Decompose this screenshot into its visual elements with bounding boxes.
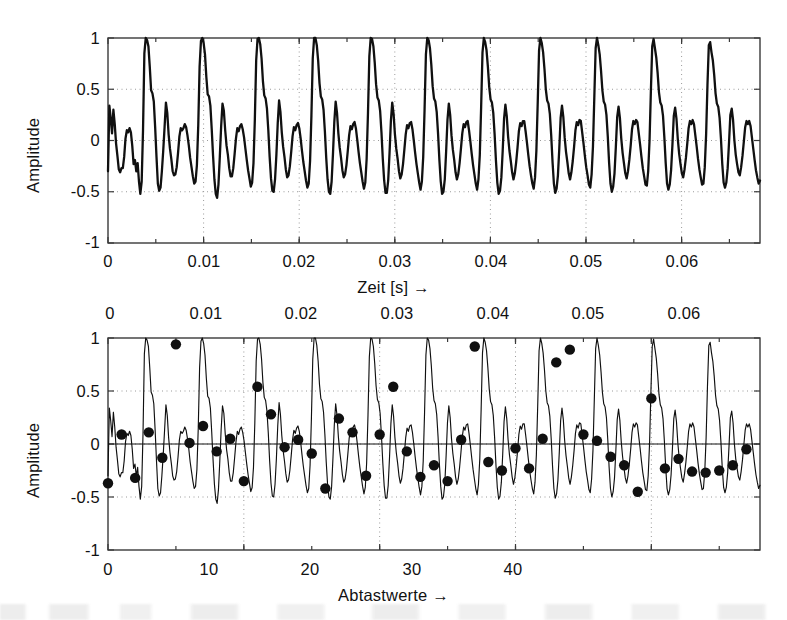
sample-point xyxy=(673,454,683,464)
sample-point xyxy=(361,471,371,481)
sample-point xyxy=(239,476,249,486)
sample-point xyxy=(605,452,615,462)
sample-point xyxy=(537,434,547,444)
sample-point xyxy=(470,341,480,351)
sample-point xyxy=(660,463,670,473)
sample-point xyxy=(184,438,194,448)
sample-point xyxy=(415,472,425,482)
sample-point xyxy=(510,443,520,453)
sample-point xyxy=(157,453,167,463)
sample-point xyxy=(225,434,235,444)
sample-point xyxy=(171,339,181,349)
sample-point xyxy=(483,457,493,467)
sample-point xyxy=(619,460,629,470)
waveform-line xyxy=(108,338,760,503)
sample-point xyxy=(144,427,154,437)
figure-root: Amplitude 1 0.5 0 -0.5 -1 0 0.01 0.02 0.… xyxy=(0,0,787,620)
sample-point xyxy=(279,442,289,452)
sample-point xyxy=(388,382,398,392)
sample-point xyxy=(130,473,140,483)
sample-point xyxy=(116,429,126,439)
sample-point xyxy=(429,460,439,470)
bottom-plot-canvas xyxy=(0,300,787,620)
sample-point xyxy=(374,429,384,439)
sample-point xyxy=(442,476,452,486)
sample-point xyxy=(728,460,738,470)
sample-point xyxy=(211,446,221,456)
top-plot-canvas xyxy=(0,0,787,300)
panel-bottom: Amplitude 0 0.01 0.02 0.03 0.04 0.05 0.0… xyxy=(0,300,787,620)
panel-top: Amplitude 1 0.5 0 -0.5 -1 0 0.01 0.02 0.… xyxy=(0,0,787,300)
sample-point xyxy=(714,465,724,475)
sample-point xyxy=(524,463,534,473)
sample-point xyxy=(741,444,751,454)
sample-point xyxy=(456,435,466,445)
sample-point xyxy=(347,427,357,437)
sample-point xyxy=(402,446,412,456)
sample-point xyxy=(565,344,575,354)
sample-point xyxy=(334,413,344,423)
sample-point xyxy=(103,478,113,488)
sample-point xyxy=(198,421,208,431)
sample-point xyxy=(551,357,561,367)
sample-point xyxy=(497,465,507,475)
sample-point xyxy=(592,436,602,446)
sample-point xyxy=(578,429,588,439)
page-caption-bleed xyxy=(0,604,787,620)
waveform-line xyxy=(108,38,760,198)
sample-point xyxy=(633,487,643,497)
sample-point xyxy=(646,393,656,403)
sample-point xyxy=(687,466,697,476)
sample-point xyxy=(320,483,330,493)
sample-point xyxy=(307,448,317,458)
sample-point xyxy=(293,435,303,445)
sample-point xyxy=(252,382,262,392)
sample-point xyxy=(700,467,710,477)
sample-point xyxy=(266,409,276,419)
